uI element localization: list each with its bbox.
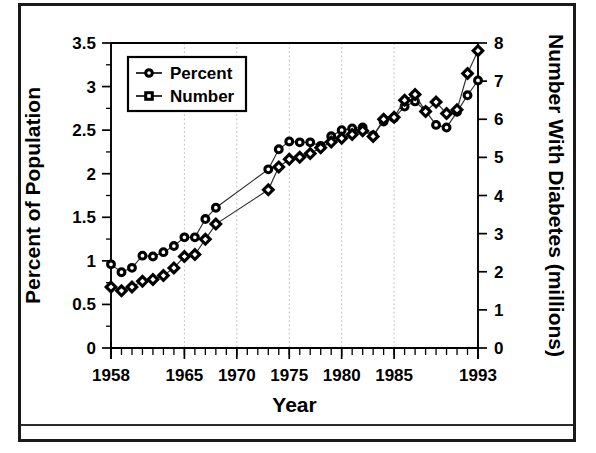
data-point-number-1992 <box>463 69 473 79</box>
ytick-label-right-3: 3 <box>494 225 503 244</box>
ytick-label-left-1: 0.5 <box>72 295 96 314</box>
data-point-percent-1976 <box>296 139 303 146</box>
legend-marker-square <box>146 93 153 100</box>
ytick-label-right-0: 0 <box>494 339 503 358</box>
ytick-label-left-4: 2 <box>87 165 96 184</box>
data-point-percent-1958 <box>108 261 115 268</box>
legend-label-percent: Percent <box>170 64 233 83</box>
xtick-label-1965: 1965 <box>165 366 203 385</box>
data-point-number-1966 <box>190 250 200 260</box>
data-point-number-1962 <box>148 275 158 285</box>
ytick-label-left-5: 2.5 <box>72 121 96 140</box>
data-point-number-1979 <box>326 137 336 147</box>
ytick-label-left-2: 1 <box>87 252 96 271</box>
legend-marker-circle <box>146 70 153 77</box>
data-point-number-1988 <box>421 107 431 117</box>
data-point-number-1987 <box>410 90 420 100</box>
data-point-number-1978 <box>316 143 326 153</box>
ytick-label-left-6: 3 <box>87 78 96 97</box>
data-point-number-1963 <box>159 271 169 281</box>
data-point-percent-1968 <box>212 204 219 211</box>
diabetes-trend-chart: 00.511.522.533.5012345678195819651970197… <box>0 0 596 453</box>
data-point-number-1985 <box>389 113 399 123</box>
data-point-percent-1966 <box>191 234 198 241</box>
data-point-number-1976 <box>295 153 305 163</box>
data-point-number-1964 <box>169 263 179 273</box>
data-point-number-1983 <box>368 132 378 142</box>
data-point-number-1975 <box>284 154 294 164</box>
xtick-label-1980: 1980 <box>323 366 361 385</box>
data-point-number-1990 <box>442 109 452 119</box>
ytick-label-right-1: 1 <box>494 301 503 320</box>
ytick-label-right-5: 5 <box>494 148 503 167</box>
ytick-label-right-4: 4 <box>494 187 504 206</box>
xtick-label-1975: 1975 <box>270 366 308 385</box>
xtick-label-1970: 1970 <box>218 366 256 385</box>
ytick-label-right-7: 7 <box>494 72 503 91</box>
x-axis-title: Year <box>272 393 316 416</box>
data-point-percent-1967 <box>202 216 209 223</box>
data-point-percent-1990 <box>443 124 450 131</box>
data-point-number-1991 <box>452 105 462 115</box>
data-point-number-1993 <box>473 46 483 56</box>
data-point-percent-1963 <box>160 249 167 256</box>
data-point-number-1986 <box>400 95 410 105</box>
data-point-percent-1977 <box>307 139 314 146</box>
data-point-percent-1989 <box>433 122 440 129</box>
data-point-percent-1973 <box>265 166 272 173</box>
data-point-number-1980 <box>337 134 347 144</box>
ytick-label-left-3: 1.5 <box>72 208 96 227</box>
data-point-number-1961 <box>138 276 148 286</box>
legend-label-number: Number <box>170 87 235 106</box>
ytick-label-right-6: 6 <box>494 110 503 129</box>
data-point-percent-1960 <box>129 264 136 271</box>
data-point-percent-1962 <box>150 253 157 260</box>
data-point-percent-1964 <box>171 243 178 250</box>
data-point-number-1958 <box>106 282 116 292</box>
data-point-number-1965 <box>180 252 190 262</box>
data-point-number-1989 <box>431 97 441 107</box>
data-point-number-1968 <box>211 219 221 229</box>
data-point-percent-1992 <box>464 92 471 99</box>
xtick-label-1958: 1958 <box>92 366 130 385</box>
data-point-percent-1993 <box>475 77 482 84</box>
ytick-label-right-2: 2 <box>494 263 503 282</box>
ytick-label-left-0: 0 <box>87 339 96 358</box>
data-point-number-1984 <box>379 114 389 124</box>
ytick-label-right-8: 8 <box>494 34 503 53</box>
y2-axis-title: Number With Diabetes (millions) <box>545 34 568 357</box>
xtick-label-1993: 1993 <box>459 366 497 385</box>
data-point-number-1974 <box>274 162 284 172</box>
ytick-label-left-7: 3.5 <box>72 34 96 53</box>
xtick-label-1985: 1985 <box>375 366 413 385</box>
data-point-percent-1959 <box>118 269 125 276</box>
data-point-number-1973 <box>263 185 273 195</box>
data-point-number-1960 <box>127 282 137 292</box>
y-axis-title: Percent of Population <box>21 87 44 304</box>
data-point-number-1982 <box>358 126 368 136</box>
data-point-percent-1961 <box>139 252 146 259</box>
data-point-number-1977 <box>305 149 315 159</box>
data-point-number-1959 <box>117 286 127 296</box>
chart-canvas: 00.511.522.533.5012345678195819651970197… <box>0 0 596 453</box>
data-point-percent-1965 <box>181 234 188 241</box>
data-point-number-1967 <box>201 235 211 245</box>
data-point-number-1981 <box>347 130 357 140</box>
data-point-percent-1975 <box>286 138 293 145</box>
data-point-percent-1974 <box>275 146 282 153</box>
